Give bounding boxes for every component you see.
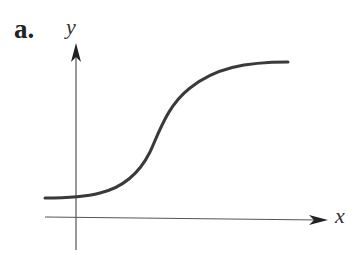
x-axis [45, 217, 320, 220]
sigmoid-curve [45, 62, 288, 198]
sigmoid-diagram [0, 0, 356, 255]
